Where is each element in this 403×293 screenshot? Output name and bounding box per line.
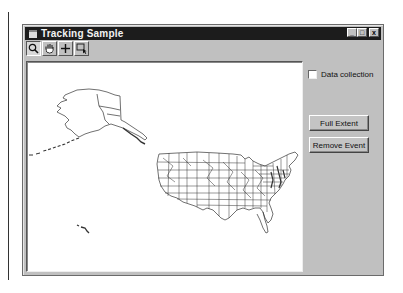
alaska-shape	[57, 89, 147, 140]
rect-select-icon	[76, 43, 87, 54]
select-tool[interactable]	[74, 41, 89, 56]
page-margin-line	[8, 12, 9, 280]
minimize-button[interactable]: _	[347, 28, 357, 37]
title-bar[interactable]: Tracking Sample _ □ x	[25, 27, 381, 40]
map-toolbar	[26, 41, 90, 56]
data-collection-label: Data collection	[321, 70, 373, 79]
remove-event-button[interactable]: Remove Event	[309, 137, 369, 153]
close-button[interactable]: x	[369, 28, 379, 37]
move-tool[interactable]	[58, 41, 73, 56]
full-extent-button[interactable]: Full Extent	[309, 115, 369, 131]
tracking-sample-window: Tracking Sample _ □ x	[22, 24, 384, 276]
zoom-in-tool[interactable]	[26, 41, 41, 56]
app-icon	[29, 30, 37, 38]
crosshair-icon	[60, 43, 71, 54]
data-collection-row: Data collection	[308, 70, 373, 79]
pan-tool[interactable]	[42, 41, 57, 56]
window-title: Tracking Sample	[41, 28, 123, 39]
magnifier-icon	[28, 43, 39, 54]
us-states-map	[27, 62, 304, 273]
maximize-button[interactable]: □	[357, 28, 367, 37]
map-view[interactable]	[26, 61, 303, 272]
hand-icon	[44, 43, 55, 54]
data-collection-checkbox[interactable]	[308, 70, 317, 79]
